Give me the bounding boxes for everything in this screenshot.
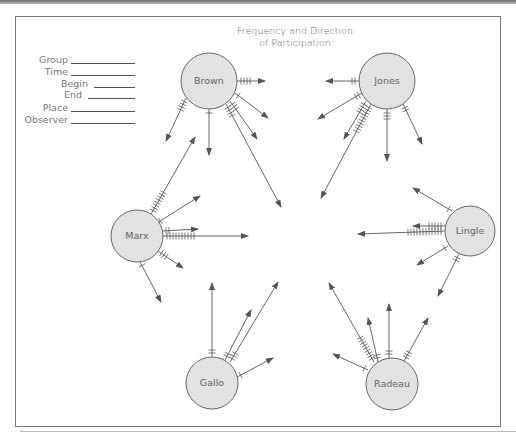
arrow-line [417, 246, 448, 265]
place-label: Place [22, 102, 68, 114]
participation-arrow-jones [321, 104, 372, 198]
participation-diagram [0, 0, 516, 437]
tally-tick [357, 336, 363, 339]
tally-tick [224, 355, 230, 358]
participation-arrow-gallo [229, 282, 278, 362]
arrow-line [318, 93, 362, 119]
tally-tick [358, 108, 364, 112]
participation-arrow-radeau [386, 304, 393, 358]
tally-tick [157, 196, 163, 199]
tally-tick [447, 206, 451, 212]
participation-arrow-brown [225, 104, 281, 207]
tally-tick [366, 352, 372, 355]
tally-tick [360, 116, 366, 119]
tally-tick [365, 349, 371, 352]
participation-arrow-brown [235, 93, 268, 118]
place-field[interactable] [71, 111, 135, 112]
tally-tick [362, 114, 368, 117]
tally-tick [160, 191, 166, 194]
arrow-line [333, 354, 368, 370]
tally-tick [361, 103, 367, 107]
tally-tick [151, 206, 157, 209]
node-label-jones: Jones [357, 75, 417, 87]
tally-tick [359, 105, 365, 109]
observer-label: Observer [22, 114, 68, 126]
participation-arrow-jones [326, 78, 359, 85]
end-field[interactable] [88, 98, 135, 99]
tally-tick [443, 245, 447, 251]
tally-tick [358, 122, 364, 125]
time-label: Time [22, 66, 68, 78]
participation-arrow-lingle [358, 228, 445, 236]
tally-tick [225, 352, 231, 355]
participation-arrow-radeau [403, 318, 428, 361]
group-field[interactable] [71, 63, 135, 64]
node-label-radeau: Radeau [362, 378, 422, 390]
tally-tick [366, 106, 372, 109]
tally-tick [454, 256, 460, 259]
arrows-layer [139, 78, 461, 379]
participation-arrow-lingle [417, 245, 448, 265]
title-line-1: Frequency and Direction [230, 25, 360, 37]
time-field[interactable] [71, 75, 135, 76]
arrow-line [237, 358, 273, 377]
participation-arrow-gallo [224, 310, 251, 360]
tally-tick [236, 93, 240, 99]
participation-arrow-jones [384, 109, 391, 161]
node-label-gallo: Gallo [182, 377, 242, 389]
tally-tick [360, 341, 366, 344]
tally-tick [406, 351, 412, 354]
diagram-title: Frequency and Direction of Participation [230, 25, 360, 49]
tally-tick [231, 354, 237, 358]
tally-tick [159, 193, 165, 196]
arrow-line [162, 229, 198, 231]
tally-tick [226, 109, 232, 112]
tally-tick [355, 127, 361, 130]
participation-arrow-marx [163, 233, 248, 240]
participation-arrow-lingle [413, 188, 452, 212]
tally-tick [403, 109, 409, 112]
participation-arrow-radeau [329, 283, 375, 362]
tally-tick [150, 209, 156, 212]
tally-tick [228, 111, 234, 114]
tally-tick [231, 105, 237, 109]
tally-tick [403, 356, 409, 359]
participation-arrow-marx [157, 196, 200, 224]
node-label-lingle: Lingle [440, 225, 500, 237]
participation-arrow-jones [402, 104, 422, 144]
tally-tick [229, 102, 235, 106]
arrow-line [413, 188, 452, 211]
participation-arrow-gallo [237, 358, 273, 378]
participation-arrow-lingle [438, 254, 460, 296]
begin-field[interactable] [94, 87, 135, 88]
tally-tick [353, 130, 359, 133]
arrow-line [225, 310, 251, 360]
tally-tick [359, 339, 365, 342]
arrow-line [329, 283, 374, 362]
tally-tick [229, 357, 235, 361]
tally-tick [229, 114, 235, 117]
tally-tick [232, 352, 238, 356]
tally-tick [404, 353, 410, 356]
arrow-line [226, 104, 281, 207]
tally-tick [156, 198, 162, 201]
tally-tick [362, 344, 368, 347]
observer-field[interactable] [71, 123, 135, 124]
title-line-2: of Participation [230, 37, 360, 49]
tally-tick [153, 204, 159, 207]
tally-tick [365, 109, 371, 112]
tally-tick [164, 254, 168, 260]
tally-tick [225, 106, 231, 109]
participation-arrow-radeau [333, 354, 368, 372]
arrow-line [158, 251, 183, 268]
participation-arrow-marx [158, 250, 183, 268]
tally-tick [359, 119, 365, 122]
participation-arrow-marx [139, 262, 161, 302]
tally-tick [356, 124, 362, 127]
tally-tick [233, 107, 239, 111]
node-label-brown: Brown [179, 75, 239, 87]
tally-tick [367, 354, 373, 357]
tally-tick [354, 94, 358, 100]
tally-tick [162, 252, 166, 258]
participation-arrow-brown [166, 98, 187, 141]
